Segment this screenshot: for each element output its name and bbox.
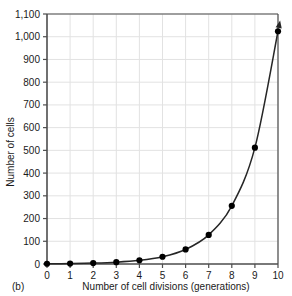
y-tick-label: 0 [34,259,40,270]
figure-panel: 01002003004005006007008009001,0001,100 0… [0,0,292,296]
data-point-marker-10 [275,28,281,34]
x-tick-label: 1 [67,270,73,281]
x-tick-label: 7 [206,270,212,281]
y-tick-label: 900 [23,54,40,65]
data-point-marker-3 [113,259,119,265]
data-point-marker-8 [229,203,235,209]
data-point-marker-0 [44,261,50,267]
x-axis-title: Number of cell divisions (generations) [82,281,249,292]
x-tick-label: 6 [183,270,189,281]
y-axis-title: Number of cells [5,117,16,186]
y-tick-label: 1,100 [15,9,40,20]
y-tick-label: 700 [23,99,40,110]
x-tick-label: 0 [44,270,50,281]
y-tick-label: 1,000 [15,31,40,42]
data-point-marker-6 [183,246,189,252]
data-point-marker-5 [159,254,165,260]
y-tick-label: 800 [23,77,40,88]
y-tick-label: 500 [23,145,40,156]
y-tick-label: 600 [23,122,40,133]
panel-label: (b) [12,281,24,292]
x-tick-label: 8 [229,270,235,281]
chart-background [0,0,292,296]
y-tick-label: 300 [23,190,40,201]
data-point-marker-7 [206,232,212,238]
data-point-marker-2 [90,260,96,266]
y-tick-label: 100 [23,236,40,247]
x-tick-label: 5 [160,270,166,281]
x-tick-label: 4 [137,270,143,281]
x-tick-label: 3 [114,270,120,281]
data-point-marker-4 [136,257,142,263]
y-tick-label: 200 [23,213,40,224]
x-tick-label: 2 [90,270,96,281]
exponential-growth-chart: 01002003004005006007008009001,0001,100 0… [0,0,292,296]
x-tick-label: 10 [272,270,284,281]
x-tick-label: 9 [252,270,258,281]
data-point-marker-9 [252,145,258,151]
data-point-marker-1 [67,260,73,266]
y-tick-label: 400 [23,168,40,179]
